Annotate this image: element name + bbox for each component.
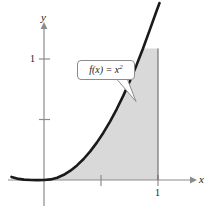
y-tick-label-1: 1	[30, 54, 35, 64]
plot-canvas	[0, 0, 213, 214]
callout-exponent: 2	[119, 63, 123, 71]
x-axis-label: x	[199, 174, 204, 185]
callout-base-text: f(x) = x	[89, 64, 119, 75]
figure-area-under-curve: f(x) = x2 y x 1 1	[0, 0, 213, 214]
y-axis-label: y	[41, 12, 46, 23]
y-axis-arrowhead	[41, 22, 48, 29]
function-callout-box: f(x) = x2	[77, 60, 135, 80]
x-axis-arrowhead	[190, 177, 197, 184]
x-tick-label-1: 1	[155, 188, 160, 198]
function-callout-label: f(x) = x2	[89, 65, 123, 75]
